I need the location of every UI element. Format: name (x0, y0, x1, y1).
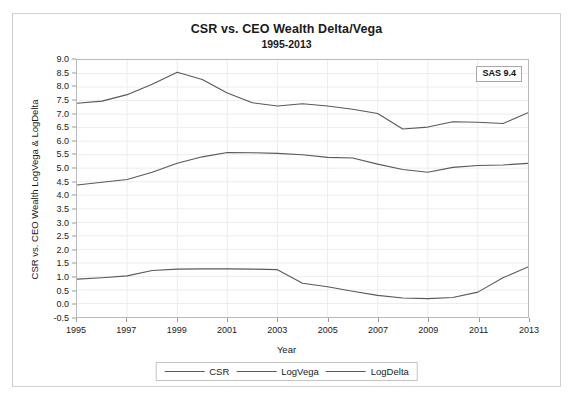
y-tick-label: 7.5 (56, 95, 69, 105)
y-tick-label: 2.0 (56, 245, 69, 255)
y-tick-label: 8.0 (56, 81, 69, 91)
legend-label: LogVega (281, 366, 319, 377)
chart-legend: CSRLogVegaLogDelta (155, 362, 418, 381)
y-tick-label: 3.5 (56, 204, 69, 214)
y-tick-label: 4.0 (56, 190, 69, 200)
x-axis-tick-marks (76, 318, 529, 324)
legend-label: LogDelta (371, 366, 409, 377)
title-block: CSR vs. CEO Wealth Delta/Vega 1995-2013 (13, 22, 560, 51)
y-tick-label: 0.5 (56, 286, 69, 296)
x-tick-mark (529, 318, 530, 322)
x-axis-label: Year (13, 344, 560, 355)
series-line-csr (77, 267, 528, 299)
y-tick-label: 8.5 (56, 68, 69, 78)
chart-figure: CSR vs. CEO Wealth Delta/Vega 1995-2013 … (12, 13, 561, 387)
x-tick-mark (227, 318, 228, 322)
legend-entry[interactable]: CSR (164, 366, 229, 377)
x-tick-mark (428, 318, 429, 322)
y-tick-label: 0.0 (56, 299, 69, 309)
y-tick-label: -0.5 (53, 313, 69, 323)
chart-subtitle: 1995-2013 (13, 37, 560, 51)
y-axis-tick-labels: -0.50.00.51.01.52.02.53.03.54.04.55.05.5… (31, 59, 69, 318)
y-tick-label: 6.5 (56, 122, 69, 132)
x-tick-mark (378, 318, 379, 322)
legend-entry[interactable]: LogDelta (326, 366, 409, 377)
x-tick-label: 2011 (469, 325, 488, 335)
x-axis-tick-labels: 1995199719992001200320052007200920112013 (76, 325, 529, 339)
y-tick-label: 5.5 (56, 149, 69, 159)
legend-line-icon (326, 371, 366, 372)
y-tick-label: 1.0 (56, 272, 69, 282)
x-tick-label: 1999 (167, 325, 187, 335)
y-tick-label: 6.0 (56, 136, 69, 146)
plot-wrapper: SAS 9.4 (76, 59, 529, 318)
x-tick-mark (126, 318, 127, 322)
status-badge: SAS 9.4 (476, 66, 522, 82)
y-tick-label: 2.5 (56, 231, 69, 241)
y-tick-label: 7.0 (56, 109, 69, 119)
x-tick-label: 1995 (66, 325, 86, 335)
legend-line-icon (164, 371, 204, 372)
x-tick-mark (328, 318, 329, 322)
x-tick-label: 2007 (368, 325, 388, 335)
x-tick-mark (277, 318, 278, 322)
x-tick-label: 2005 (318, 325, 338, 335)
x-tick-mark (177, 318, 178, 322)
y-tick-label: 9.0 (56, 54, 69, 64)
legend-entry[interactable]: LogVega (236, 366, 319, 377)
x-tick-mark (479, 318, 480, 322)
series-line-logvega (77, 153, 528, 185)
legend-line-icon (236, 371, 276, 372)
x-tick-label: 2001 (217, 325, 237, 335)
y-tick-label: 4.5 (56, 177, 69, 187)
x-tick-label: 2003 (267, 325, 287, 335)
x-tick-mark (76, 318, 77, 322)
y-tick-label: 3.0 (56, 218, 69, 228)
plot-area: SAS 9.4 (76, 59, 529, 318)
page-title: CSR vs. CEO Wealth Delta/Vega (13, 22, 560, 37)
x-tick-label: 2009 (418, 325, 438, 335)
series-canvas (77, 60, 528, 317)
x-tick-label: 1997 (116, 325, 136, 335)
legend-label: CSR (209, 366, 229, 377)
y-tick-label: 5.0 (56, 163, 69, 173)
y-tick-label: 1.5 (56, 258, 69, 268)
x-tick-label: 2013 (519, 325, 539, 335)
